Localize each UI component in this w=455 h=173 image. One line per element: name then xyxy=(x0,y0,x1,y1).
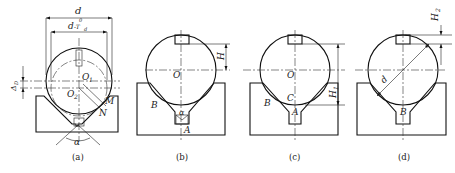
label-alpha: α xyxy=(74,137,80,147)
panel-c: H 1 O B C A (c) xyxy=(243,30,345,162)
label-o: O xyxy=(173,70,181,80)
panel-a: d d -T d 0 Δ D O 1 O 2 M N α (a) xyxy=(9,5,120,162)
label-o: O xyxy=(287,70,295,80)
panel-d: H 2 d B (d) xyxy=(355,8,452,162)
label-d-tol-sub: -T xyxy=(74,23,81,30)
panel-b: H O B α A (b) xyxy=(137,30,230,162)
label-alpha: α xyxy=(179,108,185,117)
label-h1-sub: 1 xyxy=(332,86,339,90)
label-h1: H xyxy=(328,90,338,99)
label-h2-sub: 2 xyxy=(434,8,441,13)
label-d: d xyxy=(378,74,389,85)
caption-d: (d) xyxy=(398,152,410,162)
caption-c: (c) xyxy=(289,152,300,162)
label-h2: H xyxy=(430,13,440,22)
label-o2-sub: 2 xyxy=(73,93,78,100)
caption-b: (b) xyxy=(176,152,188,162)
label-d-tol-subsub: d xyxy=(84,26,87,32)
label-o1-sub: 1 xyxy=(89,76,93,83)
label-b: B xyxy=(150,100,158,110)
label-n: N xyxy=(98,108,108,118)
label-delta: Δ xyxy=(9,85,18,92)
label-m: M xyxy=(104,96,115,106)
caption-a: (a) xyxy=(72,152,84,162)
label-b: B xyxy=(263,98,271,108)
label-delta-sub: D xyxy=(13,81,19,86)
label-a: A xyxy=(291,107,299,117)
label-d: d xyxy=(75,5,81,16)
label-c: C xyxy=(287,93,294,103)
keyway xyxy=(175,35,189,44)
label-b: B xyxy=(399,107,407,117)
label-a: A xyxy=(183,125,191,135)
label-h: H xyxy=(216,52,226,61)
